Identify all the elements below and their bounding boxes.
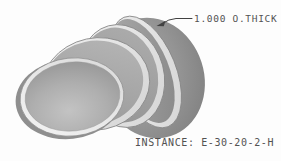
instance-note-label: INSTANCE: E-30-20-2-H bbox=[135, 137, 274, 148]
thickness-callout-label: 1.000 O.THICK bbox=[194, 13, 277, 24]
technical-drawing-canvas: 1.000 O.THICK INSTANCE: E-30-20-2-H bbox=[0, 0, 281, 161]
